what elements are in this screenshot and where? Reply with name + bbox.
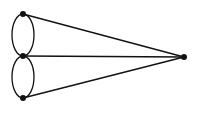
edges [12,14,184,98]
vertex-bottom [20,95,26,101]
vertex-right [181,54,187,60]
edge-bottom-right [23,57,184,98]
edge-middle-right [23,56,184,57]
edge-top-right [23,14,184,57]
vertex-middle [20,53,26,59]
graph-diagram [0,0,200,114]
double-edge-top-middle [12,14,34,56]
vertex-top [20,11,26,17]
double-edge-middle-bottom [12,56,34,98]
